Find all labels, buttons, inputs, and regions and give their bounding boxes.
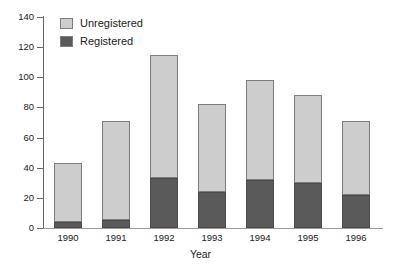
y-axis-tick-label: 20 (0, 193, 34, 203)
bar-segment-unregistered (54, 163, 82, 222)
y-axis-tick-label: 120 (0, 42, 34, 52)
legend-swatch-icon (60, 36, 73, 47)
legend-item: Unregistered (60, 15, 143, 31)
bar-group (342, 17, 370, 228)
y-axis-tick-label: 140 (0, 12, 34, 22)
y-axis-tick (37, 198, 43, 199)
bar-group (294, 17, 322, 228)
bar-segment-unregistered (198, 104, 226, 191)
y-axis-tick-label: 40 (0, 163, 34, 173)
bar-segment-unregistered (102, 121, 130, 220)
legend-item: Registered (60, 33, 143, 49)
bar-segment-unregistered (246, 80, 274, 179)
bar-group (246, 17, 274, 228)
bar-segment-unregistered (150, 55, 178, 179)
y-axis-tick-label: 100 (0, 72, 34, 82)
x-axis-tick-label: 1996 (326, 233, 386, 243)
bar-group (198, 17, 226, 228)
x-axis-title: Year (0, 249, 401, 260)
y-axis-tick-label: 60 (0, 133, 34, 143)
y-axis-tick (37, 47, 43, 48)
bar-segment-registered (294, 183, 322, 228)
x-axis-line (43, 228, 383, 229)
y-axis-tick-label: 0 (0, 223, 34, 233)
y-axis-tick (37, 168, 43, 169)
bar-segment-registered (246, 180, 274, 228)
bar-group (150, 17, 178, 228)
bar-segment-unregistered (294, 95, 322, 182)
bar-segment-unregistered (342, 121, 370, 195)
legend-label: Registered (80, 36, 133, 47)
y-axis-tick (37, 107, 43, 108)
y-axis-tick (37, 77, 43, 78)
bar-segment-registered (54, 222, 82, 228)
y-axis-tick (37, 17, 43, 18)
bar-segment-registered (150, 178, 178, 228)
chart-legend: UnregisteredRegistered (60, 15, 143, 51)
bar-segment-registered (342, 195, 370, 228)
y-axis-tick-label: 80 (0, 102, 34, 112)
bar-segment-registered (102, 220, 130, 228)
stacked-bar-chart: 020406080100120140 199019911992199319941… (0, 0, 401, 270)
y-axis-tick (37, 138, 43, 139)
bar-segment-registered (198, 192, 226, 228)
legend-swatch-icon (60, 18, 73, 29)
legend-label: Unregistered (80, 18, 143, 29)
